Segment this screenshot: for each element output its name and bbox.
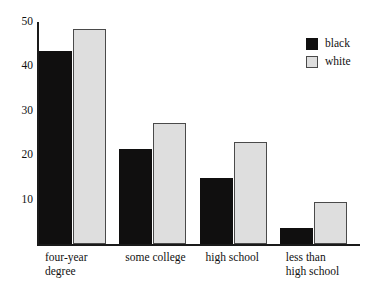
category-label: less than high school [286, 250, 339, 278]
y-tick-label: 10 [3, 194, 33, 206]
white-swatch-icon [306, 56, 318, 68]
y-tick-label: 30 [3, 105, 33, 117]
legend-item-white: white [306, 54, 372, 70]
y-axis-tick-labels: 1020304050 [0, 0, 33, 293]
bar-group [39, 22, 109, 244]
x-axis-category-labels: four-year degreesome collegehigh schooll… [39, 250, 360, 290]
category-label: high school [206, 250, 259, 264]
x-axis-line [37, 244, 360, 246]
category-label: four-year degree [45, 250, 88, 278]
y-tick-label: 50 [3, 16, 33, 28]
legend-label: white [325, 56, 351, 68]
bar-white [234, 142, 267, 244]
y-tick-label: 40 [3, 60, 33, 72]
bar-group [119, 22, 189, 244]
bar-white [314, 202, 347, 244]
category-label: some college [125, 250, 185, 264]
legend: blackwhite [306, 36, 372, 72]
bar-chart: 1020304050 four-year degreesome collegeh… [0, 0, 376, 293]
y-tick-label: 20 [3, 149, 33, 161]
bar-black [280, 228, 313, 244]
bar-black [119, 149, 152, 244]
bar-black [200, 178, 233, 244]
bar-black [39, 51, 72, 244]
bar-group [200, 22, 270, 244]
bar-white [73, 29, 106, 244]
legend-item-black: black [306, 36, 372, 52]
bar-white [153, 123, 186, 244]
legend-label: black [325, 38, 350, 50]
black-swatch-icon [306, 38, 318, 50]
